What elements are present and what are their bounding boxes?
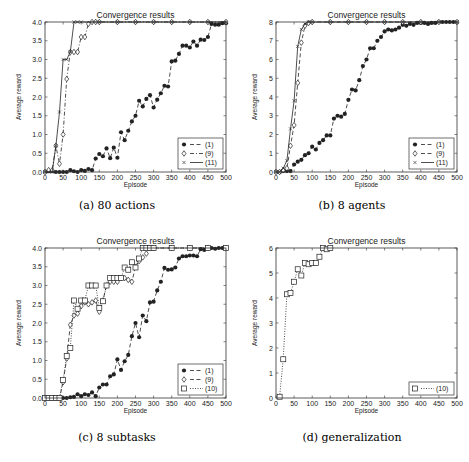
x-axis-label: Episode	[355, 407, 379, 415]
x-tick-label: 400	[415, 400, 427, 407]
y-tick-label: 3	[269, 320, 273, 327]
marker-square	[292, 279, 297, 284]
caption-b: (b) 8 agents	[235, 199, 469, 212]
y-tick-label: 5	[269, 270, 273, 277]
y-tick-label: 6	[269, 245, 273, 252]
legend-label: (10)	[436, 385, 448, 393]
chart-d-canvas: Convergence results050100150200250300350…	[0, 0, 469, 462]
x-tick-label: 150	[324, 400, 336, 407]
x-tick-label: 250	[361, 400, 373, 407]
marker-square	[295, 267, 300, 272]
x-tick-label: 300	[379, 400, 391, 407]
x-tick-label: 50	[290, 400, 298, 407]
marker-square	[317, 254, 322, 259]
x-tick-label: 350	[397, 400, 409, 407]
legend: (10)	[409, 382, 454, 395]
caption-c: (c) 8 subtasks	[0, 431, 234, 444]
marker-square	[413, 386, 418, 391]
y-tick-label: 4	[269, 295, 273, 302]
x-tick-label: 0	[274, 400, 278, 407]
marker-square	[277, 394, 282, 399]
y-axis-label: Average reward	[251, 300, 259, 346]
x-tick-label: 100	[306, 400, 318, 407]
chart-d-group: Convergence results050100150200250300350…	[251, 236, 463, 415]
marker-square	[288, 291, 293, 296]
marker-square	[281, 357, 286, 362]
y-tick-label: 1	[269, 370, 273, 377]
chart-d: Convergence results050100150200250300350…	[0, 0, 469, 462]
series-10	[277, 246, 333, 400]
x-tick-label: 200	[343, 400, 355, 407]
caption-a: (a) 80 actions	[0, 199, 234, 212]
series-line	[280, 248, 331, 397]
marker-square	[313, 261, 318, 266]
x-tick-label: 500	[451, 400, 463, 407]
marker-square	[299, 273, 304, 278]
chart-title: Convergence results	[328, 236, 406, 246]
y-tick-label: 2	[269, 345, 273, 352]
plot-frame	[276, 248, 457, 398]
x-tick-label: 450	[433, 400, 445, 407]
y-tick-label: 0	[269, 395, 273, 402]
caption-d: (d) generalization	[235, 431, 469, 444]
